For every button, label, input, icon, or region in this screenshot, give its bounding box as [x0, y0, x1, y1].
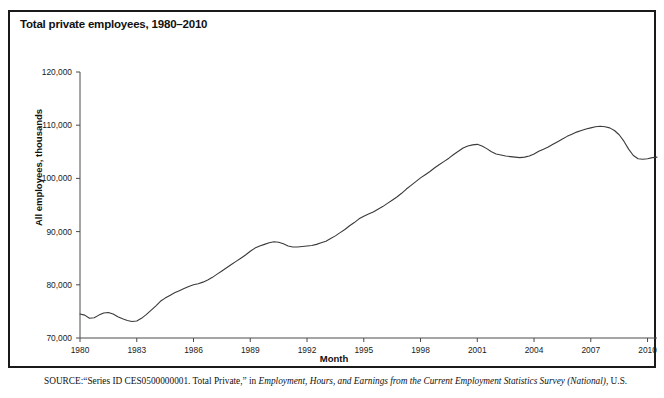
y-axis-tick-label: 110,000	[42, 120, 72, 130]
figure-frame: Total private employees, 1980–2010 70,00…	[8, 10, 656, 368]
y-axis-tick-label: 100,000	[42, 173, 73, 183]
y-axis-tick-label: 120,000	[42, 67, 73, 77]
x-axis-title: Month	[10, 353, 658, 364]
source-note: SOURCE:“Series ID CES0500000001. Total P…	[44, 376, 658, 388]
source-publication-title: Employment, Hours, and Earnings from the…	[259, 376, 606, 386]
data-series-line	[80, 126, 657, 321]
y-axis-tick-label: 90,000	[46, 227, 72, 237]
y-axis-tick-label: 80,000	[46, 280, 72, 290]
source-text-tail: , U.S.	[606, 376, 627, 386]
line-chart-svg: 70,00080,00090,000100,000110,000120,0001…	[10, 12, 658, 370]
y-axis-tick-label: 70,000	[46, 333, 72, 343]
chart-screenshot: Total private employees, 1980–2010 70,00…	[0, 0, 664, 398]
y-axis-title: All employees, thousands	[33, 93, 44, 243]
plot-area: 70,00080,00090,000100,000110,000120,0001…	[10, 12, 658, 370]
source-text-lead: “Series ID CES0500000001. Total Private,…	[83, 376, 258, 386]
source-label: SOURCE:	[44, 376, 83, 386]
